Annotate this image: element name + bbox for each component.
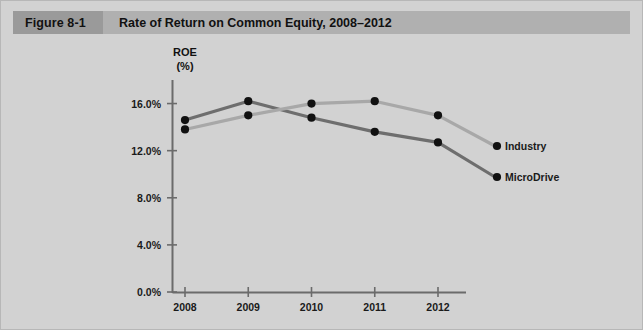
x-tick-label: 2008: [173, 301, 197, 313]
series-label-marker-industry: [493, 142, 501, 150]
series-label-microdrive: MicroDrive: [505, 171, 559, 183]
chart-plot-region: ROE (%) 0.0%4.0%8.0%12.0%16.0% 200820092…: [13, 34, 630, 317]
y-axis-title-line-2: (%): [176, 60, 193, 72]
series-leader-microdrive: [438, 142, 495, 177]
chart-series-layer: [181, 97, 495, 177]
figure-header: Figure 8-1 Rate of Return on Common Equi…: [13, 11, 630, 34]
x-axis-ticks: 20082009201020112012: [173, 287, 450, 313]
y-tick-label: 8.0%: [137, 192, 162, 204]
chart-series-labels: MicroDriveIndustry: [493, 140, 560, 183]
x-tick-label: 2012: [426, 301, 450, 313]
data-point-marker: [434, 111, 442, 119]
data-point-marker: [244, 111, 252, 119]
y-tick-label: 12.0%: [131, 145, 161, 157]
figure-container: Figure 8-1 Rate of Return on Common Equi…: [0, 0, 643, 330]
series-leader-industry: [438, 115, 495, 146]
series-label-industry: Industry: [505, 140, 547, 152]
data-point-marker: [307, 114, 315, 122]
y-tick-label: 4.0%: [137, 239, 162, 251]
figure-number-block: Figure 8-1: [13, 11, 103, 34]
figure-number-label: Figure 8-1: [25, 16, 86, 30]
data-point-marker: [434, 138, 442, 146]
y-tick-label: 0.0%: [137, 286, 162, 298]
data-point-marker: [371, 128, 379, 136]
roe-line-chart: ROE (%) 0.0%4.0%8.0%12.0%16.0% 200820092…: [13, 34, 630, 317]
series-label-marker-microdrive: [493, 173, 501, 181]
data-point-marker: [371, 97, 379, 105]
x-tick-label: 2011: [363, 301, 386, 313]
data-point-marker: [181, 116, 189, 124]
y-axis-title-line-1: ROE: [173, 46, 197, 58]
x-tick-label: 2010: [300, 301, 324, 313]
y-tick-label: 16.0%: [131, 98, 161, 110]
data-point-marker: [244, 97, 252, 105]
figure-title-label: Rate of Return on Common Equity, 2008–20…: [103, 16, 392, 30]
y-axis-ticks: 0.0%4.0%8.0%12.0%16.0%: [131, 98, 177, 298]
x-tick-label: 2009: [237, 301, 261, 313]
data-point-marker: [181, 125, 189, 133]
data-point-marker: [307, 99, 315, 107]
